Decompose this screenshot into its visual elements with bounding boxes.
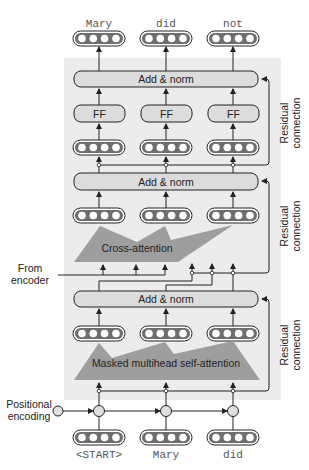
svg-text:Residual: Residual <box>278 206 290 247</box>
input-token-label: Mary <box>153 449 180 461</box>
input-vector <box>207 430 259 445</box>
svg-text:connection: connection <box>290 319 302 370</box>
sum-node <box>94 406 105 417</box>
add-norm-label: Add & norm <box>138 176 194 188</box>
input-token-label: did <box>223 449 243 461</box>
svg-text:Residual: Residual <box>278 103 290 144</box>
from-encoder-label: From <box>18 262 43 274</box>
svg-text:connection: connection <box>290 97 302 148</box>
output-token-label: Mary <box>86 18 113 30</box>
cross-attention-output-vector <box>73 208 125 223</box>
output-vector <box>73 31 125 46</box>
sum-node <box>228 406 239 417</box>
ff-input-vector <box>140 140 192 155</box>
residual-label-bottom: Residual connection <box>278 319 302 370</box>
output-vector <box>207 31 259 46</box>
positional-encoding-node <box>53 406 63 416</box>
svg-text:connection: connection <box>290 200 302 251</box>
cross-attention-output-vector <box>140 208 192 223</box>
cross-attention-label: Cross-attention <box>101 242 172 254</box>
self-attention-output-vector <box>140 326 192 341</box>
ff-input-vector <box>73 140 125 155</box>
input-token-label: <START> <box>76 449 122 461</box>
ff-input-vector <box>207 140 259 155</box>
add-norm-label: Add & norm <box>138 293 194 305</box>
output-vector <box>140 31 192 46</box>
positional-encoding-label: Positional <box>6 398 52 410</box>
ff-label: FF <box>227 108 240 120</box>
cross-attention-output-vector <box>207 208 259 223</box>
self-attention-output-vector <box>73 326 125 341</box>
add-norm-label: Add & norm <box>138 73 194 85</box>
residual-label-middle: Residual connection <box>278 200 302 251</box>
ff-label: FF <box>160 108 173 120</box>
masked-attention-label: Masked multihead self-attention <box>92 357 240 369</box>
from-encoder-label: encoder <box>11 274 49 286</box>
svg-text:Residual: Residual <box>278 325 290 366</box>
residual-label-top: Residual connection <box>278 97 302 148</box>
output-token-label: did <box>156 18 176 30</box>
ff-label: FF <box>93 108 106 120</box>
output-token-label: not <box>223 18 243 30</box>
input-vector <box>140 430 192 445</box>
sum-node <box>161 406 172 417</box>
input-vector <box>73 430 125 445</box>
self-attention-output-vector <box>207 326 259 341</box>
transformer-decoder-diagram: Mary did not Add & norm FF FF FF Add & n… <box>0 0 309 470</box>
positional-encoding-label: encoding <box>8 410 51 422</box>
